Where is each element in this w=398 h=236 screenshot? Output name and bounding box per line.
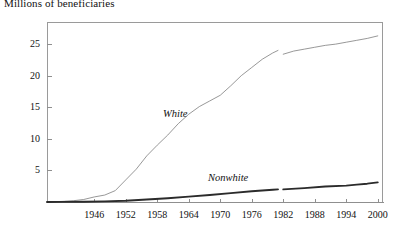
series-label-nonwhite: Nonwhite (208, 172, 248, 183)
series-line-nonwhite (283, 182, 378, 189)
series-label-white: White (163, 108, 188, 119)
chart-figure: Millions of beneficiaries 510152025 1946… (0, 0, 398, 236)
series-layer (0, 0, 398, 236)
series-line-white (283, 36, 378, 54)
